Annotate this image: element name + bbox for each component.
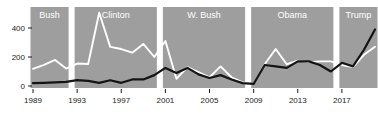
x-tick-label: 2001 <box>156 96 174 105</box>
y-tick-label: 400 <box>12 24 26 33</box>
era-label: Trump <box>346 10 372 20</box>
presidential-terms-line-chart: BushClintonW. BushObamaTrump 0200400 198… <box>0 0 378 117</box>
x-tick-label: 1997 <box>112 96 130 105</box>
x-tick-label: 1993 <box>68 96 86 105</box>
era-label: Obama <box>278 10 308 20</box>
era-label: Clinton <box>102 10 130 20</box>
x-tick-label: 1989 <box>24 96 42 105</box>
y-tick-label: 0 <box>21 82 26 91</box>
x-axis: 19891993199720012005200920132017 <box>24 89 351 105</box>
x-tick-label: 2009 <box>245 96 263 105</box>
era-label: W. Bush <box>187 10 221 20</box>
x-tick-label: 2013 <box>289 96 307 105</box>
x-tick-label: 2005 <box>201 96 219 105</box>
era-label: Bush <box>39 10 60 20</box>
chart-canvas: BushClintonW. BushObamaTrump 0200400 198… <box>0 0 378 117</box>
y-axis: 0200400 <box>12 24 32 91</box>
y-tick-label: 200 <box>12 53 26 62</box>
x-tick-label: 2017 <box>333 96 351 105</box>
